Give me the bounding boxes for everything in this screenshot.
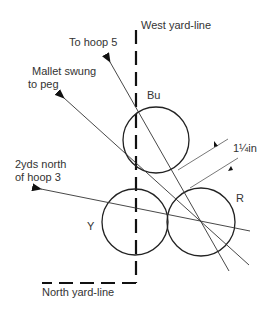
croquet-diagram: West yard-line To hoop 5 Mallet swung to… (0, 0, 275, 319)
ball-r-label: R (236, 192, 244, 204)
west-yard-line-label: West yard-line (141, 19, 211, 31)
balls (102, 107, 235, 256)
measurement-annotation (178, 139, 238, 188)
arrow-to-hoop-5 (110, 62, 229, 271)
of-hoop-3-label: of hoop 3 (15, 171, 61, 183)
arrow-mallet-to-peg (64, 98, 249, 265)
mallet-swung-label: Mallet swung (32, 65, 96, 77)
to-peg-label: to peg (28, 78, 59, 90)
measurement-tick-lower-icon (228, 166, 233, 171)
north-yard-line-label: North yard-line (42, 286, 114, 298)
measurement-line-lower (190, 158, 238, 188)
direction-lines (41, 62, 250, 271)
arrow-2yds-north-hoop-3 (41, 189, 250, 231)
ball-y-label: Y (87, 220, 95, 232)
ball-bu-label: Bu (147, 89, 160, 101)
measurement-label: 1¼in (233, 142, 257, 154)
measurement-tick-upper-icon (214, 141, 218, 147)
ball-blue (123, 107, 189, 173)
to-hoop-5-label: To hoop 5 (69, 36, 117, 48)
2yds-north-label: 2yds north (15, 158, 66, 170)
